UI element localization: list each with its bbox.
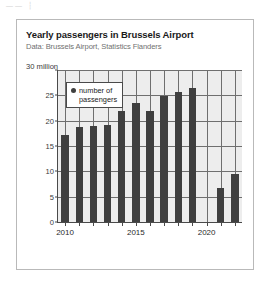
bar bbox=[76, 127, 83, 222]
gridline-horizontal bbox=[58, 70, 242, 71]
x-axis-tick-mark bbox=[79, 222, 80, 226]
x-axis-tick-mark bbox=[136, 222, 137, 226]
legend-label-line2: passengers bbox=[79, 95, 117, 104]
x-axis-tick-label: 2010 bbox=[56, 228, 74, 237]
y-axis-unit-label: 30 million bbox=[26, 62, 58, 71]
x-axis-tick-mark bbox=[108, 222, 109, 226]
plot-wrapper: 30 million 0510152025201020152020 number… bbox=[26, 62, 246, 262]
bar bbox=[132, 103, 139, 222]
x-axis-tick-mark bbox=[150, 222, 151, 226]
gridline-vertical bbox=[207, 70, 208, 222]
y-axis-tick-mark bbox=[55, 146, 58, 147]
legend-label-line1: number of bbox=[79, 86, 112, 95]
y-axis-tick-label: 25 bbox=[46, 91, 54, 100]
bar bbox=[175, 92, 182, 222]
bar bbox=[104, 125, 111, 222]
x-axis-tick-mark bbox=[235, 222, 236, 226]
y-axis-tick-label: 15 bbox=[46, 142, 54, 151]
chart-card: Yearly passengers in Brussels Airport Da… bbox=[16, 19, 254, 270]
bar bbox=[61, 135, 68, 222]
y-axis-tick-label: 10 bbox=[46, 167, 54, 176]
y-axis-tick-mark bbox=[55, 196, 58, 197]
bar bbox=[217, 188, 224, 222]
y-axis-tick-mark bbox=[55, 222, 58, 223]
bar bbox=[90, 126, 97, 222]
bar bbox=[231, 174, 238, 222]
bar bbox=[189, 88, 196, 222]
y-axis-tick-mark bbox=[55, 70, 58, 71]
x-axis-tick-mark bbox=[93, 222, 94, 226]
x-axis-tick-mark bbox=[178, 222, 179, 226]
x-axis-tick-label: 2015 bbox=[127, 228, 145, 237]
top-artifact: —— ┆ bbox=[6, 2, 34, 10]
chart-legend: number of passengers bbox=[66, 82, 123, 108]
x-axis-tick-label: 2020 bbox=[198, 228, 216, 237]
chart-card-inner: Yearly passengers in Brussels Airport Da… bbox=[17, 20, 253, 269]
y-axis-tick-label: 20 bbox=[46, 116, 54, 125]
legend-marker-dot bbox=[71, 88, 76, 93]
chart-title: Yearly passengers in Brussels Airport bbox=[26, 29, 244, 41]
y-axis-tick-mark bbox=[55, 120, 58, 121]
bar bbox=[118, 111, 125, 222]
bar bbox=[146, 111, 153, 222]
chart-subtitle: Data: Brussels Airport, Statistics Fland… bbox=[26, 42, 244, 52]
x-axis-tick-mark bbox=[164, 222, 165, 226]
y-axis-tick-mark bbox=[55, 171, 58, 172]
x-axis-tick-mark bbox=[65, 222, 66, 226]
x-axis-tick-mark bbox=[122, 222, 123, 226]
x-axis-tick-mark bbox=[207, 222, 208, 226]
y-axis-tick-mark bbox=[55, 95, 58, 96]
chart-screenshot: —— ┆ Yearly passengers in Brussels Airpo… bbox=[0, 0, 270, 284]
legend-label: number of passengers bbox=[79, 86, 117, 104]
x-axis-tick-mark bbox=[221, 222, 222, 226]
y-axis-tick-label: 5 bbox=[50, 192, 54, 201]
bar bbox=[160, 96, 167, 222]
x-axis-tick-mark bbox=[192, 222, 193, 226]
y-axis-tick-label: 0 bbox=[50, 218, 54, 227]
